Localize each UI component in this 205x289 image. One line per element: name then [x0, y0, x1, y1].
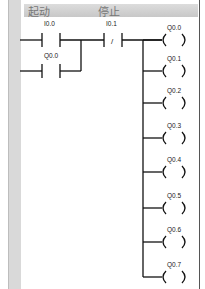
coil-Q0-7: Q0.7	[143, 261, 185, 283]
nc-slash: /	[111, 37, 114, 46]
coil-Q0-0: Q0.0	[143, 24, 185, 46]
coil-Q0-3: Q0.3	[143, 122, 185, 144]
contact-label: Q0.0	[44, 52, 58, 60]
coil-Q0-6: Q0.6	[143, 226, 185, 248]
coil-label: Q0.5	[167, 192, 181, 200]
coil-label: Q0.0	[167, 24, 181, 32]
contact-label: I0.1	[106, 20, 117, 27]
coil-label: Q0.4	[167, 156, 181, 164]
coil-label: Q0.7	[167, 261, 181, 269]
contact-label: I0.0	[44, 20, 55, 27]
coil-label: Q0.6	[167, 226, 181, 234]
coil-Q0-2: Q0.2	[143, 87, 185, 109]
coil-Q0-5: Q0.5	[143, 192, 185, 214]
coil-label: Q0.1	[167, 55, 181, 63]
coil-Q0-1: Q0.1	[143, 55, 185, 77]
ladder-diagram: I0.0 Q0.0 I0.1 / Q0.0 Q0.1 Q0.2 Q0.3 Q0.…	[0, 0, 205, 289]
coil-label: Q0.2	[167, 87, 181, 95]
coil-label: Q0.3	[167, 122, 181, 130]
coil-Q0-4: Q0.4	[143, 156, 185, 178]
